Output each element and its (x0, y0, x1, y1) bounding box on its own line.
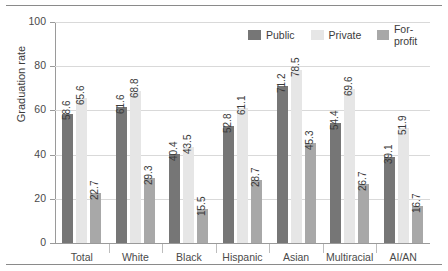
bar-value-label: 71.2 (277, 73, 287, 92)
bar-value-label: 52.8 (223, 114, 233, 133)
x-axis-label-white: White (109, 251, 163, 263)
chart-legend: PublicPrivateFor-profit (248, 23, 448, 47)
legend-label: For-profit (394, 23, 432, 47)
bar-private[interactable] (183, 147, 194, 243)
bar-public[interactable] (384, 157, 395, 243)
plot-area: 58.665.622.761.668.829.340.443.515.552.8… (55, 22, 430, 243)
bar-forprofit[interactable] (358, 184, 369, 243)
bar-public[interactable] (330, 123, 341, 243)
legend-item-private[interactable]: Private (311, 29, 362, 41)
bar-value-label: 65.6 (76, 86, 86, 105)
bar-private[interactable] (291, 70, 302, 243)
bar-value-label: 39.1 (384, 144, 394, 163)
bar-value-label: 68.8 (130, 78, 140, 97)
bar-public[interactable] (223, 126, 234, 243)
bar-private[interactable] (344, 89, 355, 243)
y-axis-tick-label: 100 (6, 16, 46, 27)
bar-private[interactable] (398, 128, 409, 243)
bar-value-label: 26.7 (358, 172, 368, 191)
bar-forprofit[interactable] (251, 180, 262, 243)
bar-value-label: 51.9 (398, 116, 408, 135)
bar-value-label: 22.7 (90, 180, 100, 199)
bar-private[interactable] (76, 98, 87, 243)
bar-value-label: 69.6 (344, 77, 354, 96)
y-axis-tick-label: 80 (6, 60, 46, 71)
bar-forprofit[interactable] (305, 143, 316, 243)
bar-value-label: 78.5 (291, 57, 301, 76)
x-axis-label-total: Total (55, 251, 109, 263)
bar-value-label: 61.1 (237, 96, 247, 115)
legend-label: Public (266, 29, 295, 41)
bar-forprofit[interactable] (90, 193, 101, 243)
y-axis-tick-label: 0 (6, 237, 46, 248)
legend-label: Private (329, 29, 362, 41)
bar-series-group: 58.665.622.761.668.829.340.443.515.552.8… (55, 22, 430, 243)
bar-value-label: 15.5 (197, 196, 207, 215)
bar-forprofit[interactable] (144, 178, 155, 243)
bottom-divider-rule (6, 264, 442, 265)
bar-chart-figure: Graduation rate 020406080100 58.665.622.… (0, 0, 448, 271)
bar-value-label: 43.5 (183, 134, 193, 153)
bar-value-label: 58.6 (62, 101, 72, 120)
top-divider-rule (6, 5, 442, 6)
y-axis-tick-label: 60 (6, 104, 46, 115)
bar-value-label: 29.3 (144, 166, 154, 185)
y-axis-tick-label: 40 (6, 149, 46, 160)
legend-swatch-icon (248, 30, 261, 40)
x-axis-label-multiracial: Multiracial (323, 251, 377, 263)
x-axis-label-hispanic: Hispanic (216, 251, 270, 263)
bar-private[interactable] (237, 108, 248, 243)
x-axis-label-black: Black (162, 251, 216, 263)
legend-swatch-icon (377, 30, 389, 40)
bar-value-label: 28.7 (251, 167, 261, 186)
bar-value-label: 45.3 (305, 130, 315, 149)
legend-swatch-icon (311, 30, 324, 40)
bar-value-label: 54.4 (330, 110, 340, 129)
bar-public[interactable] (116, 107, 127, 243)
x-axis-label-ai-an: AI/AN (376, 251, 430, 263)
bar-private[interactable] (130, 91, 141, 243)
x-axis-label-asian: Asian (269, 251, 323, 263)
gridline (55, 243, 430, 244)
y-axis-tick-label: 20 (6, 193, 46, 204)
bar-value-label: 16.7 (412, 194, 422, 213)
legend-item-for-profit[interactable]: For-profit (377, 23, 432, 47)
bar-value-label: 40.4 (169, 141, 179, 160)
bar-public[interactable] (62, 114, 73, 244)
legend-item-public[interactable]: Public (248, 29, 295, 41)
y-axis-title: Graduation rate (15, 19, 27, 149)
bar-public[interactable] (169, 154, 180, 243)
bar-public[interactable] (277, 86, 288, 243)
bar-value-label: 61.6 (116, 94, 126, 113)
